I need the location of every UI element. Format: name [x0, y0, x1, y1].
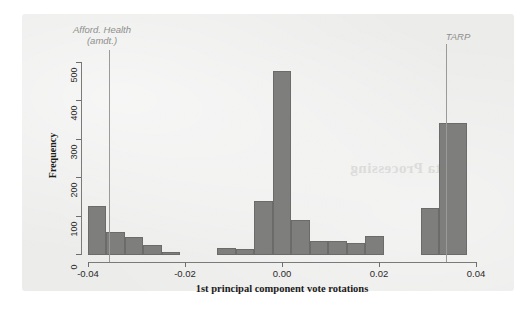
histogram-bar: [88, 206, 106, 255]
y-axis-spine: [81, 62, 82, 255]
histogram-bar: [310, 241, 328, 255]
y-tick-mark-200: [76, 177, 81, 178]
y-tick-mark-300: [76, 139, 81, 140]
histogram-bar: [125, 237, 143, 255]
histogram-figure: Frequency 0 100 200 300 400 500 -0.04 -0…: [0, 0, 530, 314]
x-tick-mark--0.02: [185, 262, 186, 267]
annotation-label-afford-health: Afford. Health (amdt.): [52, 24, 152, 46]
histogram-bar: [254, 201, 272, 255]
x-axis-label: 1st principal component vote rotations: [88, 283, 476, 294]
histogram-bar: [421, 208, 439, 255]
y-tick-mark-400: [76, 100, 81, 101]
annotation-line-afford-health: [109, 50, 110, 262]
histogram-bar: [143, 245, 161, 255]
histogram-bar: [365, 236, 383, 255]
y-tick-label-100: 100: [69, 216, 79, 242]
x-tick-label-0.00: 0.00: [260, 268, 304, 279]
histogram-bar: [236, 249, 254, 255]
x-tick-mark-0.00: [282, 262, 283, 267]
x-tick-mark--0.04: [88, 262, 89, 267]
y-tick-label-400: 400: [69, 100, 79, 126]
histogram-bar: [217, 248, 235, 255]
histogram-bars: [88, 58, 476, 255]
histogram-bar: [328, 241, 346, 255]
x-tick-label-0.04: 0.04: [454, 268, 498, 279]
y-tick-label-200: 200: [69, 177, 79, 203]
histogram-bar: [347, 243, 365, 256]
x-tick-label--0.02: -0.02: [163, 268, 207, 279]
scanned-page: Data Processing Frequency 0 100 200 300 …: [0, 0, 530, 314]
y-axis-label: Frequency: [47, 133, 58, 178]
annotation-label-tarp: TARP: [418, 31, 498, 42]
annotation-label-tarp-line1: TARP: [418, 31, 498, 42]
annotation-label-afford-health-line1: Afford. Health: [52, 24, 152, 35]
x-tick-label-0.02: 0.02: [357, 268, 401, 279]
annotation-label-afford-health-line2: (amdt.): [52, 35, 152, 46]
histogram-bar: [439, 123, 467, 255]
y-tick-mark-100: [76, 216, 81, 217]
y-tick-label-500: 500: [69, 62, 79, 88]
x-tick-mark-0.04: [476, 262, 477, 267]
histogram-bar: [273, 71, 291, 255]
histogram-bar: [291, 220, 309, 255]
x-tick-label--0.04: -0.04: [66, 268, 110, 279]
histogram-bar: [162, 252, 180, 255]
y-tick-mark-0: [76, 254, 81, 255]
y-tick-mark-500: [76, 62, 81, 63]
x-tick-mark-0.02: [379, 262, 380, 267]
annotation-line-tarp: [446, 44, 447, 262]
y-tick-label-300: 300: [69, 139, 79, 165]
